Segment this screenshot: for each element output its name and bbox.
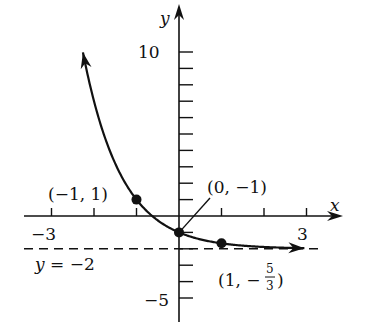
asymptote-label: y = −2	[34, 254, 95, 274]
y-tick-label-neg5: −5	[144, 290, 169, 310]
function-graph: y x 10 −5 −3 3 y = −2 (−1, 1) (0, −1) (1…	[0, 0, 366, 331]
x-tick-label-neg3: −3	[31, 224, 56, 244]
point-label-0-neg1: (0, −1)	[207, 177, 267, 197]
x-axis-label: x	[330, 195, 340, 215]
y-tick-label-10: 10	[138, 42, 160, 62]
svg-text:5: 5	[266, 262, 274, 276]
point-label-neg1-1: (−1, 1)	[48, 184, 108, 204]
exponential-curve	[83, 52, 304, 248]
point-label-1-neg5over3: (1, − 5 3 )	[218, 262, 284, 293]
y-axis-label: y	[159, 8, 170, 28]
curve-arrows	[81, 52, 305, 253]
svg-text:): )	[277, 270, 284, 290]
x-tick-label-3: 3	[297, 224, 308, 244]
svg-text:3: 3	[266, 279, 274, 293]
svg-text:(1, −: (1, −	[218, 270, 261, 290]
